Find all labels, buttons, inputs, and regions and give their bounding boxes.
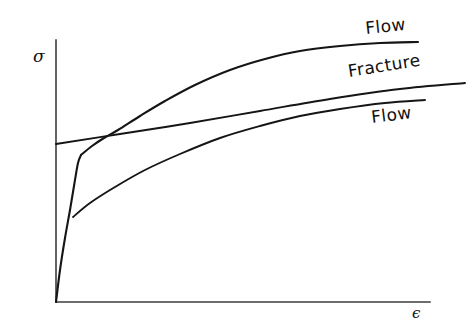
flow-upper-label: Flow	[364, 14, 406, 38]
stress-strain-figure: Flow Fracture Flow σ ϵ	[0, 0, 472, 322]
epsilon-axis-label: ϵ	[412, 304, 421, 322]
sigma-axis-label: σ	[33, 46, 45, 66]
figure-background	[0, 0, 472, 322]
figure-canvas: Flow Fracture Flow σ ϵ	[0, 0, 472, 322]
